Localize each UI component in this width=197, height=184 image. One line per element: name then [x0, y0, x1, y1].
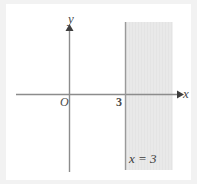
y-axis-label: y: [68, 12, 74, 25]
x-axis-label: x: [183, 87, 189, 100]
boundary-line-equation-label: x = 3: [129, 152, 157, 165]
x-tick-label-3: 3: [116, 96, 122, 108]
figure-canvas: y x O 3 x = 3: [6, 4, 191, 180]
shaded-region-overlay: [126, 22, 173, 170]
origin-label: O: [60, 96, 69, 108]
coordinate-plane-svg: [6, 4, 191, 180]
